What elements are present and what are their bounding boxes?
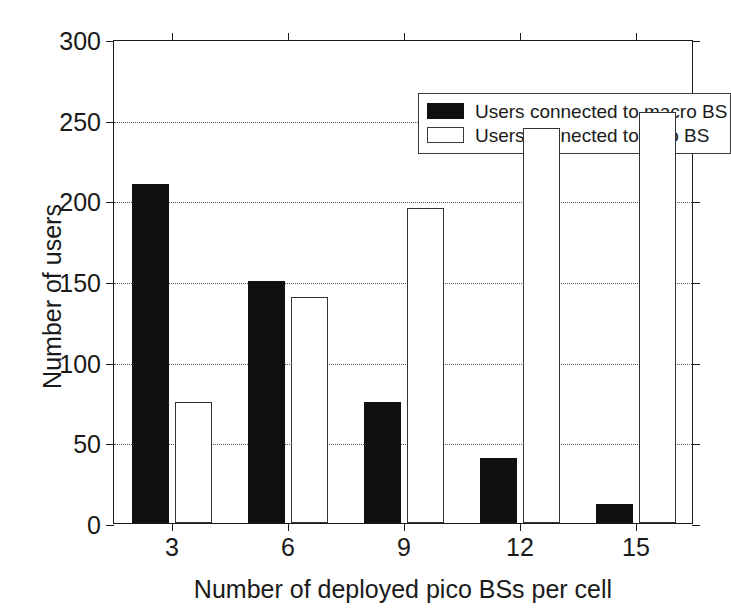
- gridline-150: [114, 283, 692, 284]
- y-tick-0: [106, 525, 114, 526]
- y-tick-200: [106, 202, 114, 203]
- gridline-200: [114, 202, 692, 203]
- bar-macro-15: [596, 504, 633, 523]
- y-tick-300: [106, 41, 114, 42]
- bar-macro-12: [480, 458, 517, 523]
- bar-pico-12: [523, 128, 560, 523]
- x-tick-label-12: 12: [506, 535, 534, 560]
- legend-swatch-pico-icon: [427, 127, 464, 143]
- bar-macro-9: [364, 402, 401, 523]
- y-tick-250: [106, 122, 114, 123]
- plot-area: 050100150200250300 3691215 Users connect…: [113, 40, 693, 524]
- legend-label-macro: Users connected to macro BS: [475, 102, 727, 121]
- bar-pico-15: [639, 112, 676, 523]
- y-tick-50: [106, 444, 114, 445]
- x-tick-label-15: 15: [622, 535, 650, 560]
- y-tick-right-100: [692, 364, 700, 365]
- y-tick-label-0: 0: [87, 513, 101, 538]
- y-tick-right-200: [692, 202, 700, 203]
- chart-legend: Users connected to macro BS Users connec…: [418, 93, 731, 154]
- legend-item-macro: Users connected to macro BS: [427, 99, 722, 123]
- x-tick-3: [172, 523, 173, 531]
- y-tick-right-150: [692, 283, 700, 284]
- bar-macro-3: [132, 184, 169, 523]
- bar-pico-3: [175, 402, 212, 523]
- y-tick-right-50: [692, 444, 700, 445]
- x-axis-title: Number of deployed pico BSs per cell: [113, 575, 693, 604]
- y-tick-right-300: [692, 41, 700, 42]
- bar-pico-6: [291, 297, 328, 523]
- x-tick-top-9: [404, 33, 405, 41]
- x-tick-top-3: [172, 33, 173, 41]
- y-tick-label-50: 50: [73, 432, 101, 457]
- x-tick-label-9: 9: [397, 535, 411, 560]
- y-tick-right-0: [692, 525, 700, 526]
- x-tick-15: [636, 523, 637, 531]
- legend-item-pico: Users connected to pico BS: [427, 123, 722, 147]
- y-tick-150: [106, 283, 114, 284]
- x-tick-label-3: 3: [165, 535, 179, 560]
- x-tick-12: [520, 523, 521, 531]
- bar-pico-9: [407, 208, 444, 523]
- x-tick-top-6: [288, 33, 289, 41]
- y-tick-100: [106, 364, 114, 365]
- y-axis-title: Number of users: [38, 97, 67, 497]
- gridline-100: [114, 364, 692, 365]
- x-tick-6: [288, 523, 289, 531]
- bar-macro-6: [248, 281, 285, 523]
- x-tick-top-15: [636, 33, 637, 41]
- x-tick-label-6: 6: [281, 535, 295, 560]
- x-tick-9: [404, 523, 405, 531]
- x-tick-top-12: [520, 33, 521, 41]
- legend-swatch-macro-icon: [427, 103, 464, 119]
- y-tick-label-300: 300: [59, 29, 101, 54]
